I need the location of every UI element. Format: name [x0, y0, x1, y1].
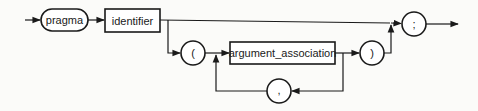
semicolon-node: ;	[402, 12, 426, 36]
pragma-syntax-diagram: pragma identifier ( argument_association…	[0, 0, 478, 111]
comma-label: ,	[277, 84, 280, 96]
comma-node: ,	[267, 79, 291, 103]
lparen-label: (	[191, 47, 195, 59]
pragma-label: pragma	[46, 14, 84, 26]
pragma-keyword-node: pragma	[41, 9, 88, 31]
rparen-node: )	[360, 41, 384, 65]
identifier-label: identifier	[112, 15, 154, 27]
identifier-node: identifier	[105, 9, 160, 32]
semicolon-label: ;	[412, 18, 415, 30]
branch-to-lparen	[168, 20, 180, 53]
argument-association-label: argument_association	[229, 47, 337, 59]
rparen-label: )	[370, 47, 374, 59]
bypass-line	[160, 20, 390, 23]
rparen-to-merge	[384, 25, 391, 53]
lparen-node: (	[181, 41, 205, 65]
argument-association-node: argument_association	[229, 42, 337, 64]
arrow-to-semicolon	[391, 23, 401, 24]
